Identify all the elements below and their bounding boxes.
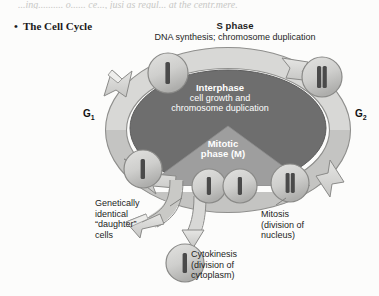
cell-mitosis-right — [271, 164, 309, 202]
chromosome-duplicated-b — [323, 66, 327, 88]
interphase-line3: chromosome duplication — [150, 103, 290, 113]
mitosis-line3: nucleus) — [261, 230, 341, 241]
cytokinesis-line3: cytoplasm) — [191, 270, 276, 281]
mitotic-line2: phase (M) — [178, 149, 268, 159]
g2-letter: G — [355, 108, 363, 119]
interphase-line2: cell growth and — [150, 93, 290, 103]
chromosome-duplicated-a — [317, 66, 321, 88]
interphase-title: Interphase — [150, 83, 290, 93]
daughter-line2: identical — [95, 209, 175, 220]
scanned-page: ...ing.......... o...... ce..., jusi as … — [0, 0, 379, 296]
daughter-line4: cells — [95, 230, 175, 241]
chromosome-single — [141, 159, 145, 179]
daughter-line3: “daughter” — [95, 219, 175, 230]
daughter-line1: Genetically — [95, 198, 175, 209]
chromosome-single — [207, 177, 211, 195]
g1-subscript: 1 — [91, 114, 95, 121]
interphase-label: Interphase cell growth and chromosome du… — [150, 83, 290, 113]
chromosome-single — [183, 253, 187, 273]
g1-phase-label: G1 — [83, 108, 95, 121]
chromosome-duplicated-a — [286, 173, 290, 193]
g2-phase-label: G2 — [355, 108, 367, 121]
cytokinesis-caption: Cytokinesis (division of cytoplasm) — [191, 249, 276, 281]
mitosis-line2: (division of — [261, 220, 341, 231]
chromosome-single — [165, 62, 170, 84]
cytokinesis-line2: (division of — [191, 260, 276, 271]
chromosome-single — [238, 177, 242, 195]
chromosome-duplicated-b — [291, 173, 295, 193]
g2-subscript: 2 — [363, 114, 367, 121]
daughter-cells-caption: Genetically identical “daughter” cells — [95, 198, 175, 240]
mitosis-caption: Mitosis (division of nucleus) — [261, 209, 341, 241]
cytokinesis-line1: Cytokinesis — [191, 249, 276, 260]
mitotic-phase-label: Mitotic phase (M) — [178, 139, 268, 159]
g1-letter: G — [83, 108, 91, 119]
cell-division-b — [223, 169, 257, 203]
cell-division-a — [192, 169, 226, 203]
mitosis-line1: Mitosis — [261, 209, 341, 220]
cell-g2-top-right — [302, 57, 342, 97]
cell-g1-left — [124, 150, 162, 188]
